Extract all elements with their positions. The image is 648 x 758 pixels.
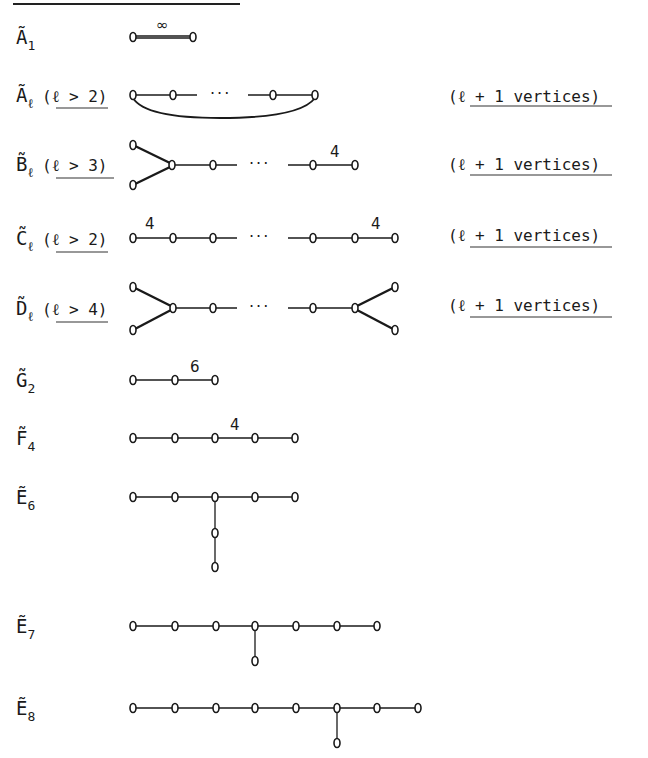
- diagram-Cl: C̃ℓ (ℓ > 2) ··· 4 4 (ℓ + 1 vertices): [16, 215, 612, 254]
- vertices-note-Cl: (ℓ + 1 vertices): [448, 226, 600, 245]
- node: [130, 141, 136, 150]
- node: [172, 434, 178, 443]
- node: [292, 493, 298, 502]
- node: [334, 704, 340, 713]
- node: [213, 622, 219, 631]
- node: [334, 622, 340, 631]
- svg-text:···: ···: [249, 297, 270, 316]
- node: [292, 434, 298, 443]
- diagram-G2: G̃2 6: [16, 358, 218, 396]
- node: [293, 704, 299, 713]
- node: [210, 234, 216, 243]
- node: [312, 91, 318, 100]
- edge-label-6: 6: [190, 358, 200, 376]
- label-Al: Ãℓ: [16, 84, 34, 111]
- node: [374, 622, 380, 631]
- node: [270, 91, 276, 100]
- node: [172, 622, 178, 631]
- condition-Bl: (ℓ > 3): [42, 156, 107, 175]
- svg-text:···: ···: [210, 84, 231, 103]
- node: [130, 91, 136, 100]
- node: [310, 161, 316, 170]
- vertices-note-Dl: (ℓ + 1 vertices): [448, 296, 600, 315]
- condition-Al: (ℓ > 2): [42, 87, 107, 106]
- diagram-E6: Ẽ6: [16, 486, 298, 572]
- vertices-note-Al: (ℓ + 1 vertices): [448, 87, 600, 106]
- node: [130, 376, 136, 385]
- label-E7: Ẽ7: [16, 615, 35, 642]
- condition-Dl: (ℓ > 4): [42, 300, 107, 319]
- node: [130, 326, 136, 335]
- node: [213, 704, 219, 713]
- node: [212, 529, 218, 538]
- label-F4: F̃4: [16, 425, 35, 454]
- label-G2: G̃2: [16, 367, 35, 396]
- node: [170, 91, 176, 100]
- node: [210, 304, 216, 313]
- node: [130, 234, 136, 243]
- node: [293, 622, 299, 631]
- edge-label-4: 4: [230, 416, 240, 434]
- edge-label-infinity: ∞: [156, 16, 169, 34]
- node: [252, 493, 258, 502]
- diagram-E8: Ẽ8: [16, 697, 421, 748]
- node: [212, 434, 218, 443]
- label-E6: Ẽ6: [16, 486, 35, 513]
- node: [252, 434, 258, 443]
- node: [374, 704, 380, 713]
- node: [130, 283, 136, 292]
- node: [392, 326, 398, 335]
- label-Cl: C̃ℓ: [16, 225, 34, 254]
- node: [172, 493, 178, 502]
- node: [130, 704, 136, 713]
- diagram-F4: F̃4 4: [16, 416, 298, 454]
- node: [310, 234, 316, 243]
- node: [212, 493, 218, 502]
- node: [352, 304, 358, 313]
- node: [352, 234, 358, 243]
- label-Bl: B̃ℓ: [16, 151, 34, 180]
- node: [252, 622, 258, 631]
- node: [130, 33, 136, 42]
- edge-label-4-right: 4: [371, 215, 381, 233]
- edge-label-4: 4: [330, 143, 340, 161]
- node: [130, 493, 136, 502]
- node: [252, 657, 258, 666]
- node: [415, 704, 421, 713]
- condition-Cl: (ℓ > 2): [42, 230, 107, 249]
- diagram-Al: Ãℓ (ℓ > 2) ··· (ℓ + 1 vertices): [16, 84, 612, 118]
- node: [130, 434, 136, 443]
- label-Dl: D̃ℓ: [16, 295, 34, 324]
- node: [392, 234, 398, 243]
- label-A1: Ã1: [16, 26, 35, 53]
- svg-text:···: ···: [249, 227, 270, 246]
- node: [130, 622, 136, 631]
- node: [212, 376, 218, 385]
- node: [252, 704, 258, 713]
- diagram-A1: Ã1 ∞: [16, 16, 196, 53]
- vertices-note-Bl: (ℓ + 1 vertices): [448, 155, 600, 174]
- node: [310, 304, 316, 313]
- diagram-Bl: B̃ℓ (ℓ > 3) ··· 4 (ℓ + 1 vertices): [16, 141, 612, 190]
- node: [334, 739, 340, 748]
- node: [130, 181, 136, 190]
- node: [172, 376, 178, 385]
- node: [392, 283, 398, 292]
- label-E8: Ẽ8: [16, 697, 35, 724]
- node: [172, 704, 178, 713]
- svg-text:···: ···: [249, 154, 270, 173]
- node: [170, 304, 176, 313]
- diagram-E7: Ẽ7: [16, 615, 380, 666]
- node: [212, 563, 218, 572]
- node: [352, 161, 358, 170]
- node: [170, 234, 176, 243]
- node: [190, 33, 196, 42]
- edge-label-4-left: 4: [145, 215, 155, 233]
- node: [169, 161, 175, 170]
- node: [210, 161, 216, 170]
- diagram-Dl: D̃ℓ (ℓ > 4) ··· (ℓ + 1 vertices): [16, 283, 612, 335]
- extended-dynkin-diagrams: Ã1 ∞ Ãℓ (ℓ > 2) ··· (ℓ + 1 vertices) B̃ℓ…: [0, 0, 648, 758]
